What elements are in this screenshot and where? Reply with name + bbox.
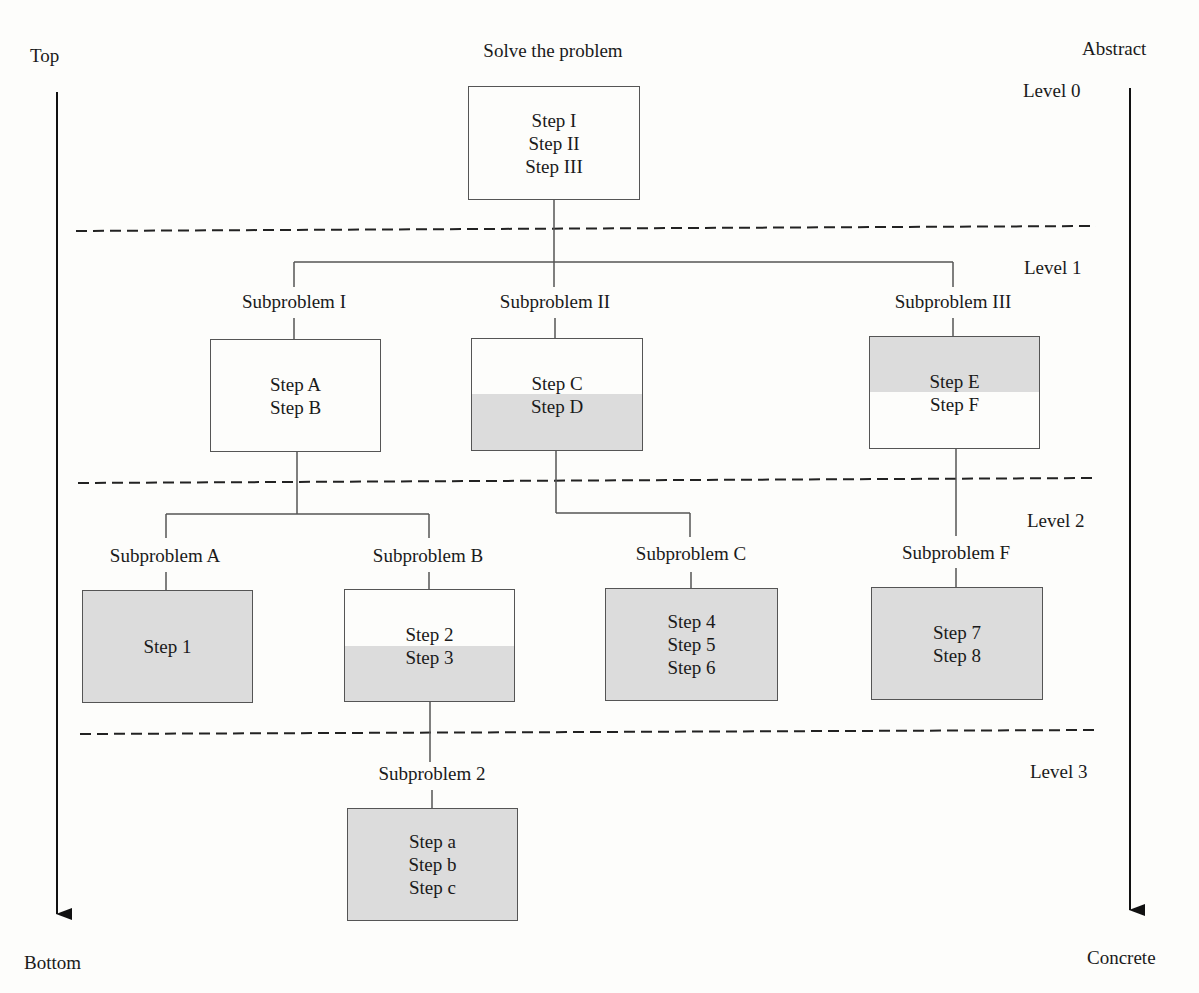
level-divider-0-1 — [76, 226, 1096, 231]
subproblem-II-step-box: Step C Step D — [471, 338, 643, 451]
step-label: Step E — [929, 370, 979, 393]
subproblem-A-title: Subproblem A — [110, 545, 220, 567]
subproblem-III-title: Subproblem III — [895, 291, 1012, 313]
subproblem-F-title: Subproblem F — [902, 542, 1010, 564]
step-label: Step 1 — [143, 635, 191, 658]
level-divider-1-2 — [78, 478, 1096, 483]
step-label: Step 5 — [667, 633, 715, 656]
step-label: Step b — [408, 853, 456, 876]
level-label-2: Level 2 — [1027, 510, 1085, 532]
subproblem-II-title: Subproblem II — [500, 291, 610, 313]
step-label: Step 2 — [405, 623, 453, 646]
subproblem-A-step-box: Step 1 — [82, 590, 253, 703]
subproblem-2-title: Subproblem 2 — [378, 763, 485, 785]
step-label: Step 7 — [933, 621, 981, 644]
step-label: Step C — [531, 372, 582, 395]
step-label: Step 3 — [405, 646, 453, 669]
subproblem-III-step-box: Step E Step F — [869, 336, 1040, 449]
step-label: Step 4 — [667, 610, 715, 633]
step-label: Step 6 — [667, 656, 715, 679]
step-label: Step F — [930, 393, 979, 416]
step-label: Step A — [270, 373, 321, 396]
root-title: Solve the problem — [483, 40, 622, 62]
subproblem-C-title: Subproblem C — [636, 543, 746, 565]
axis-label-bottom: Bottom — [24, 952, 81, 974]
subproblem-B-step-box: Step 2 Step 3 — [344, 589, 515, 702]
subproblem-I-step-box: Step A Step B — [210, 339, 381, 452]
axis-label-top: Top — [30, 45, 59, 67]
step-label: Step 8 — [933, 644, 981, 667]
axis-label-abstract: Abstract — [1082, 38, 1146, 60]
root-step-box: Step I Step II Step III — [468, 86, 640, 200]
subproblem-B-title: Subproblem B — [373, 545, 483, 567]
level-label-3: Level 3 — [1030, 761, 1088, 783]
level-divider-2-3 — [80, 730, 1096, 734]
step-label: Step c — [409, 876, 456, 899]
step-label: Step B — [270, 396, 321, 419]
level-label-0: Level 0 — [1023, 80, 1081, 102]
step-label: Step I — [532, 109, 577, 132]
decomposition-diagram: Top Bottom Abstract Concrete Level 0 Lev… — [0, 0, 1199, 993]
step-label: Step II — [528, 132, 579, 155]
level-label-1: Level 1 — [1024, 257, 1082, 279]
step-label: Step D — [531, 395, 583, 418]
subproblem-2-step-box: Step a Step b Step c — [347, 808, 518, 921]
subproblem-C-step-box: Step 4 Step 5 Step 6 — [605, 588, 778, 701]
step-label: Step III — [525, 155, 583, 178]
subproblem-F-step-box: Step 7 Step 8 — [871, 587, 1043, 700]
subproblem-I-title: Subproblem I — [242, 291, 346, 313]
step-label: Step a — [409, 830, 456, 853]
axis-label-concrete: Concrete — [1087, 947, 1156, 969]
